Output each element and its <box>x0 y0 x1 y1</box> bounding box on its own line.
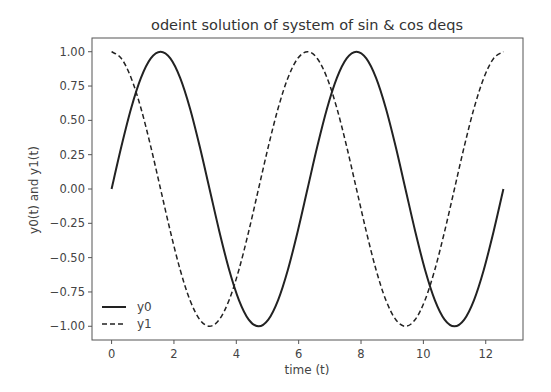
y-tick-label: 0.25 <box>59 148 85 162</box>
x-tick-label: 12 <box>478 347 493 361</box>
y-tick-label: −0.75 <box>50 285 85 299</box>
x-axis-label: time (t) <box>285 363 330 377</box>
legend: y0 y1 <box>102 300 152 331</box>
y-tick-label: −0.25 <box>50 216 85 230</box>
legend-label-y1: y1 <box>137 317 152 331</box>
x-axis-ticks: 024681012 <box>108 340 493 361</box>
series-y0-line <box>112 52 504 327</box>
chart-title: odeint solution of system of sin & cos d… <box>151 17 463 33</box>
x-tick-label: 8 <box>357 347 364 361</box>
plot-area <box>112 52 504 327</box>
y-tick-label: 0.50 <box>59 113 85 127</box>
y-tick-label: 0.75 <box>59 79 85 93</box>
chart-canvas: odeint solution of system of sin & cos d… <box>0 0 551 392</box>
y-tick-label: −0.50 <box>50 251 85 265</box>
x-tick-label: 6 <box>295 347 302 361</box>
x-tick-label: 2 <box>170 347 177 361</box>
x-tick-label: 0 <box>108 347 115 361</box>
y-tick-label: 1.00 <box>59 45 85 59</box>
legend-label-y0: y0 <box>137 300 152 314</box>
x-tick-label: 4 <box>233 347 240 361</box>
y-tick-label: −1.00 <box>50 319 85 333</box>
y-axis-ticks: 1.000.750.500.250.00−0.25−0.50−0.75−1.00 <box>50 45 92 334</box>
chart: odeint solution of system of sin & cos d… <box>0 0 551 392</box>
x-tick-label: 10 <box>416 347 431 361</box>
y-axis-label: y0(t) and y1(t) <box>27 146 41 234</box>
y-tick-label: 0.00 <box>59 182 85 196</box>
